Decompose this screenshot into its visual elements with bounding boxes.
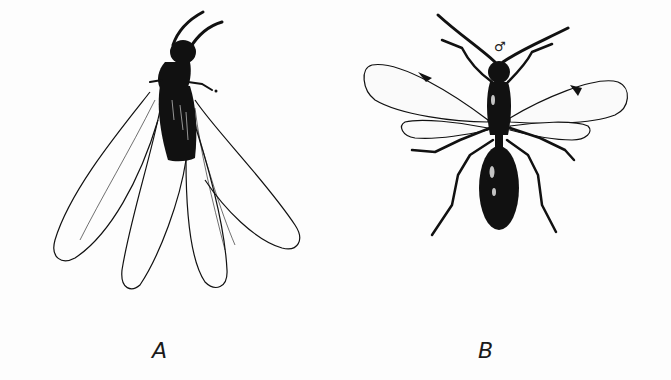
panel-label-b: B	[478, 338, 493, 363]
male-symbol: ♂	[494, 39, 506, 54]
figure: ♂ A B	[0, 0, 671, 380]
panel-label-a: A	[152, 338, 167, 363]
panel-a-illustration	[40, 0, 320, 320]
insect-a-drawing	[40, 0, 320, 320]
